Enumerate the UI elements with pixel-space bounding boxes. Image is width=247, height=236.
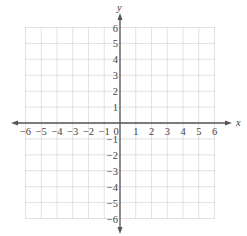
y-tick-label: 3 — [113, 70, 118, 81]
y-tick-label: 6 — [113, 23, 118, 34]
x-tick-label: 3 — [165, 126, 170, 137]
y-tick-label: 5 — [113, 38, 118, 49]
x-tick-label: −5 — [36, 126, 47, 137]
y-tick-label: 1 — [113, 102, 118, 113]
coordinate-plane: xy−6−5−4−3−2−10123456−6−5−4−3−2−1123456 — [0, 0, 247, 236]
x-tick-label: 4 — [180, 126, 186, 137]
y-tick-label: 2 — [113, 86, 118, 97]
x-axis-left-arrow-icon — [11, 121, 18, 126]
y-tick-label: 4 — [113, 54, 119, 65]
x-tick-label: −2 — [83, 126, 94, 137]
x-tick-label: −6 — [20, 126, 31, 137]
tick-labels: xy−6−5−4−3−2−10123456−6−5−4−3−2−1123456 — [20, 2, 241, 225]
y-axis-label: y — [116, 2, 122, 13]
y-axis-up-arrow-icon — [118, 13, 123, 20]
x-tick-label: 6 — [212, 126, 217, 137]
y-tick-label: −5 — [107, 198, 118, 209]
x-tick-label: −4 — [51, 126, 63, 137]
x-tick-label: 1 — [133, 126, 138, 137]
y-tick-label: −4 — [107, 182, 119, 193]
x-tick-label: −3 — [67, 126, 78, 137]
y-tick-label: −6 — [107, 214, 118, 225]
x-axis-right-arrow-icon — [225, 121, 232, 126]
y-axis-down-arrow-icon — [118, 227, 123, 234]
y-tick-label: −1 — [107, 134, 118, 145]
y-tick-label: −3 — [107, 166, 118, 177]
y-tick-label: −2 — [107, 150, 118, 161]
x-axis-label: x — [235, 117, 241, 128]
x-tick-label: 5 — [196, 126, 201, 137]
x-tick-label: 2 — [149, 126, 154, 137]
